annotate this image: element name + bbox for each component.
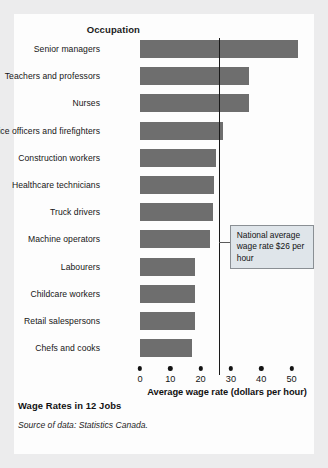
bar bbox=[140, 149, 216, 167]
bar bbox=[140, 339, 192, 357]
bar bbox=[140, 67, 249, 85]
bar-row: Healthcare technicians bbox=[14, 176, 314, 194]
bar-row: Senior managers bbox=[14, 40, 314, 58]
x-axis-tick-dot bbox=[229, 366, 233, 370]
x-axis-title: Average wage rate (dollars per hour) bbox=[140, 387, 314, 397]
bar-row: Teachers and professors bbox=[14, 67, 314, 85]
x-axis-tick-dot bbox=[198, 366, 202, 370]
bar bbox=[140, 203, 213, 221]
bar-category-label: Teachers and professors bbox=[0, 71, 100, 81]
x-axis-tick-label: 30 bbox=[226, 374, 236, 384]
x-axis-tick-label: 20 bbox=[195, 374, 205, 384]
bar-category-label: Childcare workers bbox=[0, 289, 100, 299]
bar-category-label: Construction workers bbox=[0, 153, 100, 163]
bar-row: Police officers and firefighters bbox=[14, 122, 314, 140]
bar-row: Childcare workers bbox=[14, 285, 314, 303]
x-axis-tick-label: 0 bbox=[137, 374, 142, 384]
bar-category-label: Nurses bbox=[0, 98, 100, 108]
bar-category-label: Healthcare technicians bbox=[0, 180, 100, 190]
bar-category-label: Police officers and firefighters bbox=[0, 126, 100, 136]
x-axis-tick-label: 50 bbox=[286, 374, 296, 384]
x-axis-tick-dot bbox=[168, 366, 172, 370]
bar-category-label: Retail salespersons bbox=[0, 316, 100, 326]
x-axis-tick-dot bbox=[259, 366, 263, 370]
bar bbox=[140, 230, 210, 248]
occupation-axis-heading: Occupation bbox=[14, 24, 140, 35]
bar-row: Chefs and cooks bbox=[14, 339, 314, 357]
bar-category-label: Truck drivers bbox=[0, 207, 100, 217]
plot-area: Occupation Senior managersTeachers and p… bbox=[14, 14, 314, 376]
bar bbox=[140, 285, 195, 303]
bar-row: Retail salespersons bbox=[14, 312, 314, 330]
bar-row: Construction workers bbox=[14, 149, 314, 167]
bar-category-label: Labourers bbox=[0, 262, 100, 272]
figure: Occupation Senior managersTeachers and p… bbox=[14, 14, 314, 454]
bar-category-label: Chefs and cooks bbox=[0, 343, 100, 353]
x-axis-tick-label: 10 bbox=[165, 374, 175, 384]
x-axis-tick-dot bbox=[289, 366, 293, 370]
bar bbox=[140, 312, 195, 330]
national-average-reference-line bbox=[219, 38, 220, 375]
figure-caption: Wage Rates in 12 Jobs bbox=[18, 400, 121, 411]
figure-source: Source of data: Statistics Canada. bbox=[18, 420, 148, 430]
x-axis-tick-label: 40 bbox=[256, 374, 266, 384]
bar-category-label: Machine operators bbox=[0, 234, 100, 244]
bar bbox=[140, 122, 223, 140]
bar-row: Truck drivers bbox=[14, 203, 314, 221]
bar-row: Nurses bbox=[14, 94, 314, 112]
bar bbox=[140, 94, 249, 112]
national-average-callout: National average wage rate $26 per hour bbox=[230, 225, 314, 269]
bar bbox=[140, 258, 195, 276]
bar bbox=[140, 176, 214, 194]
bar-category-label: Senior managers bbox=[0, 44, 100, 54]
callout-leader-line bbox=[219, 242, 230, 243]
x-axis-tick-dot bbox=[138, 366, 142, 370]
